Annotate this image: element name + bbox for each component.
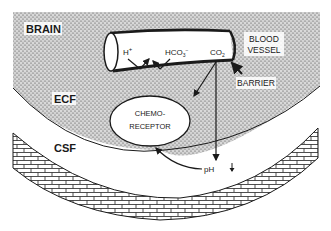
blood-vessel-label-line2: VESSEL bbox=[247, 45, 280, 55]
csf-label: CSF bbox=[54, 142, 76, 154]
ph-label: pH bbox=[204, 165, 214, 174]
down-arrow-icon bbox=[230, 163, 235, 172]
chemoreceptor-label-line1: CHEMO- bbox=[135, 109, 166, 118]
diagram-canvas: H+ HCO3− CO2 CHEMO- RECEPTOR pH BRAIN EC… bbox=[0, 0, 331, 231]
bicarbonate-label: HCO3− bbox=[165, 47, 189, 58]
brain-label: BRAIN bbox=[26, 23, 61, 35]
ecf-label: ECF bbox=[54, 93, 76, 105]
chemoreceptor bbox=[110, 96, 190, 146]
blood-vessel-label-line1: BLOOD bbox=[249, 34, 279, 44]
barrier-label: BARRIER bbox=[237, 78, 275, 88]
chemoreceptor-label-line2: RECEPTOR bbox=[129, 122, 171, 131]
